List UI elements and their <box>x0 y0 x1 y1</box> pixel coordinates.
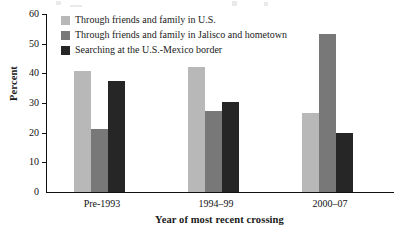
y-tick-mark <box>42 103 46 104</box>
y-tick-0: 0 <box>6 192 46 193</box>
y-tick-60: 60 <box>6 14 46 15</box>
legend-label: Through friends and family in U.S. <box>75 14 216 26</box>
y-tick-label: 50 <box>29 37 39 50</box>
bar-2000-07-friends-jalisco <box>319 34 336 192</box>
bar-2000-07-friends-us <box>302 113 319 192</box>
bar-2000-07-border-search <box>336 133 353 192</box>
legend-label: Through friends and family in Jalisco an… <box>75 29 287 41</box>
y-tick-label: 20 <box>29 126 39 139</box>
y-tick-label: 60 <box>29 7 39 20</box>
bar-pre-1993-border-search <box>108 81 125 192</box>
bar-1994-99-friends-jalisco <box>205 111 222 192</box>
legend-label: Searching at the U.S.-Mexico border <box>75 44 222 56</box>
legend-swatch-medium <box>61 31 70 40</box>
y-tick-50: 50 <box>6 44 46 45</box>
y-tick-mark <box>42 133 46 134</box>
x-axis-line <box>46 192 394 193</box>
legend-item-friends-jalisco: Through friends and family in Jalisco an… <box>61 28 287 42</box>
y-tick-label: 30 <box>29 96 39 109</box>
y-tick-40: 40 <box>6 73 46 74</box>
bar-chart-figure: Percent 60 50 40 30 20 10 0 <box>0 0 405 239</box>
legend-swatch-dark <box>61 46 70 55</box>
y-tick-30: 30 <box>6 103 46 104</box>
y-tick-10: 10 <box>6 162 46 163</box>
y-tick-label: 40 <box>29 66 39 79</box>
y-tick-label: 0 <box>34 185 39 198</box>
bar-1994-99-friends-us <box>188 67 205 192</box>
scan-crop-artifact <box>0 0 405 7</box>
bar-pre-1993-friends-us <box>74 71 91 192</box>
y-tick-mark <box>42 162 46 163</box>
legend-item-border-search: Searching at the U.S.-Mexico border <box>61 43 287 57</box>
y-tick-mark <box>42 44 46 45</box>
x-tick-label-pre-1993: Pre-1993 <box>42 198 162 209</box>
bar-1994-99-border-search <box>222 102 239 192</box>
y-tick-20: 20 <box>6 133 46 134</box>
bar-pre-1993-friends-jalisco <box>91 129 108 192</box>
legend-swatch-light <box>61 16 70 25</box>
legend-item-friends-us: Through friends and family in U.S. <box>61 13 287 27</box>
x-axis-title: Year of most recent crossing <box>46 214 393 225</box>
x-tick-label-1994-99: 1994–99 <box>156 198 276 209</box>
y-tick-mark <box>42 73 46 74</box>
y-axis-title: Percent <box>8 49 19 119</box>
y-tick-mark <box>42 14 46 15</box>
y-tick-label: 10 <box>29 155 39 168</box>
chart-legend: Through friends and family in U.S. Throu… <box>61 13 287 58</box>
x-tick-label-2000-07: 2000–07 <box>270 198 390 209</box>
